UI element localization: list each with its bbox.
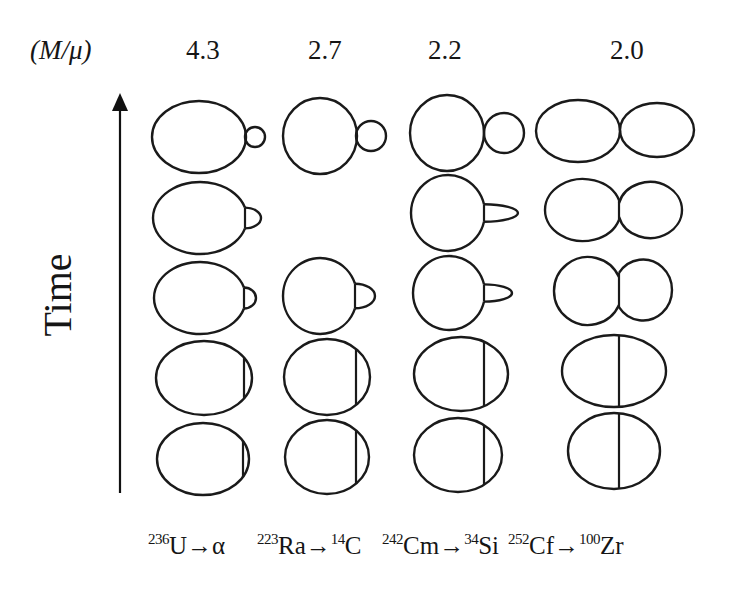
nucleus-shape-stage-3 [554, 257, 672, 325]
decay-arrow-icon: → [187, 532, 212, 559]
nucleus-shape-stage-3 [413, 256, 512, 330]
decay-arrow-icon: → [306, 532, 331, 559]
fragment-mass-number: 100 [579, 531, 600, 547]
nucleus-shape-stage-4 [414, 337, 508, 411]
nucleus-shape-stage-2 [545, 179, 682, 241]
nucleus-shape-stage-4 [156, 341, 252, 415]
nucleus-column-cm242 [410, 95, 524, 492]
shape-canvas [0, 0, 730, 594]
decay-label-cm242: 242Cm→34Si [382, 533, 499, 558]
parent-mass-number: 252 [508, 531, 529, 547]
nucleus-shape-stage-1 [152, 101, 265, 173]
nucleus-column-u236 [152, 101, 265, 495]
decay-label-ra223: 223Ra→14C [257, 533, 361, 558]
nucleus-shape-stage-5 [568, 413, 660, 489]
fragment-symbol: α [212, 532, 225, 559]
parent-symbol: Ra [278, 532, 306, 559]
nucleus-column-cf252 [536, 100, 694, 489]
decay-arrow-icon: → [439, 532, 464, 559]
parent-symbol: U [169, 532, 187, 559]
parent-symbol: Cm [403, 532, 439, 559]
nucleus-shape-stage-4 [284, 339, 370, 415]
nucleus-shape-stage-4 [562, 335, 666, 407]
decay-label-cf252: 252Cf→100Zr [508, 533, 624, 558]
nucleus-shape-stage-5 [414, 418, 502, 492]
nucleus-column-ra223 [283, 98, 386, 494]
nucleus-shape-stage-1 [536, 100, 694, 162]
nucleus-shape-stage-1 [283, 98, 386, 174]
parent-mass-number: 223 [257, 531, 278, 547]
decay-label-u236: 236U→α [148, 533, 225, 558]
nucleus-shape-stage-3 [154, 262, 256, 334]
nucleus-shape-stage-3 [283, 258, 375, 334]
parent-symbol: Cf [529, 532, 554, 559]
nucleus-shape-stage-5 [157, 423, 249, 495]
decay-arrow-icon: → [554, 532, 579, 559]
time-arrow-icon [112, 93, 128, 493]
fragment-symbol: C [345, 532, 362, 559]
nucleus-shape-stage-5 [285, 420, 369, 494]
parent-mass-number: 242 [382, 531, 403, 547]
nucleus-shape-stage-2 [153, 182, 261, 254]
nucleus-shape-stage-1 [410, 95, 524, 171]
shape-grid [152, 95, 694, 495]
fragment-mass-number: 34 [464, 531, 478, 547]
fragment-symbol: Si [478, 532, 499, 559]
nucleus-shape-stage-2 [411, 175, 518, 251]
fragment-mass-number: 14 [331, 531, 345, 547]
fragment-symbol: Zr [600, 532, 624, 559]
parent-mass-number: 236 [148, 531, 169, 547]
